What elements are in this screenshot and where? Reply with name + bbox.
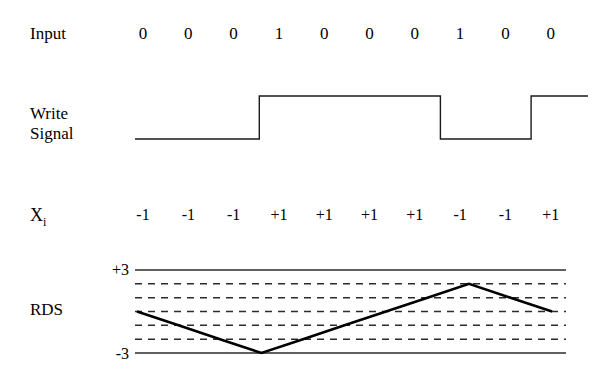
- rds-waveform: [137, 284, 552, 353]
- waveform-layer: [0, 0, 595, 374]
- rds-encoding-timing-diagram: Input Write Signal Xi RDS +3 -3 00010001…: [0, 0, 595, 374]
- write-signal-waveform: [135, 96, 588, 139]
- rds-gridlines: [135, 270, 566, 353]
